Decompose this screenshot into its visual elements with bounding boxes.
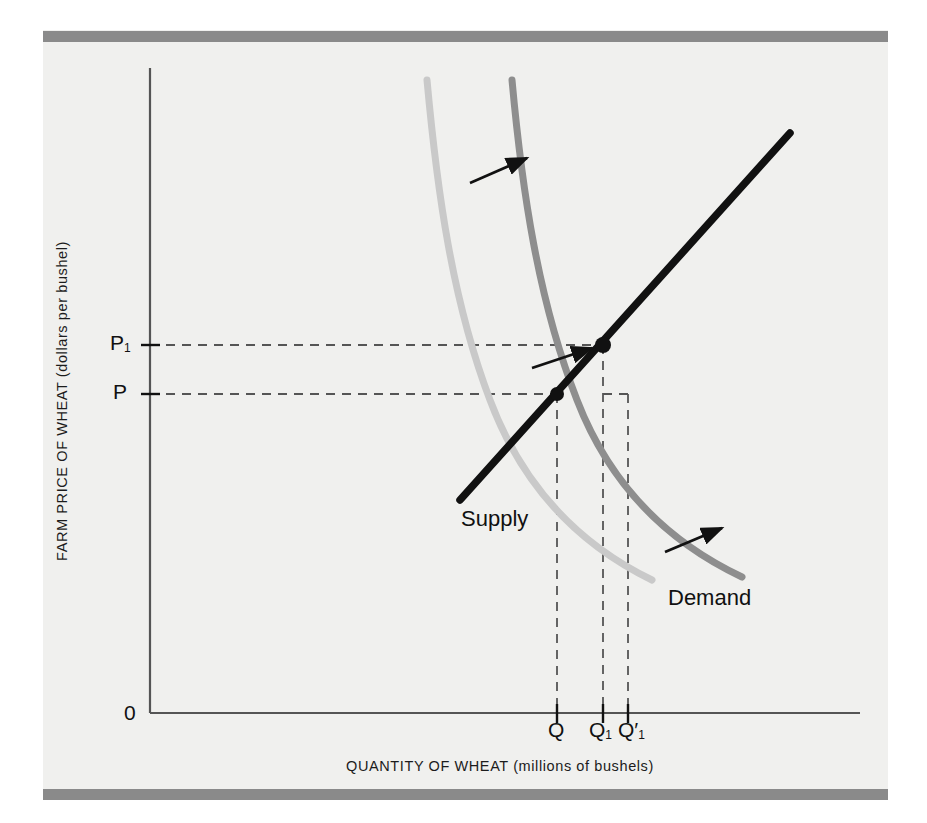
quantity-guide-lines — [557, 345, 628, 713]
demand-curve-original — [427, 80, 652, 580]
price-tick-label-p: P — [113, 380, 127, 404]
y-axis-title-wrap: FARM PRICE OF WHEAT (dollars per bushel) — [53, 191, 71, 611]
origin-label: 0 — [124, 701, 136, 725]
demand-curve-label: Demand — [668, 585, 751, 611]
equilibrium-point-new — [595, 337, 611, 353]
axis-lines — [150, 68, 860, 713]
x-axis-title: QUANTITY OF WHEAT (millions of bushels) — [346, 758, 654, 774]
equilibrium-point-original — [550, 387, 564, 401]
quantity-tick-label-q1: Q1 — [589, 718, 612, 742]
demand-shift-arrow-upper — [470, 158, 527, 183]
supply-demand-chart — [0, 0, 927, 823]
quantity-tick-label-q1-prime: Q′1 — [618, 718, 645, 742]
price-tick-label-p1: P1 — [110, 331, 131, 355]
figure-page: P1 P Q Q1 Q′1 0 Supply Demand FARM PRICE… — [0, 0, 927, 823]
price-guide-lines — [150, 345, 603, 394]
supply-curve-label: Supply — [461, 506, 528, 532]
x-axis-title-wrap: QUANTITY OF WHEAT (millions of bushels) — [150, 757, 850, 775]
y-axis-title: FARM PRICE OF WHEAT (dollars per bushel) — [54, 241, 70, 561]
supply-curve — [460, 133, 790, 500]
quantity-tick-label-q: Q — [548, 718, 564, 742]
